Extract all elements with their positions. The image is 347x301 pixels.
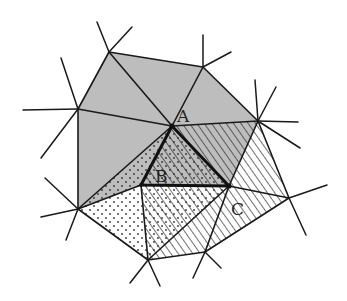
label-a: A bbox=[176, 106, 190, 126]
label-c: C bbox=[231, 199, 244, 219]
label-b: B bbox=[155, 166, 168, 186]
triangulation-diagram: A B C bbox=[0, 0, 347, 301]
